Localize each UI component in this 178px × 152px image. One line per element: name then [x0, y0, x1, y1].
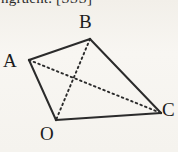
quadrilateral-outline [29, 39, 161, 120]
geometry-figure: ngruent. [SSS] A B C O [0, 0, 178, 152]
diagonal-bo-dashed [56, 39, 90, 120]
vertex-point-a [28, 59, 30, 61]
vertex-point-o [55, 119, 57, 121]
vertex-label-b: B [79, 12, 92, 31]
vertex-label-o: O [40, 124, 54, 143]
vertex-label-a: A [3, 51, 17, 70]
vertex-point-b [89, 38, 91, 40]
vertex-label-c: C [162, 100, 175, 119]
